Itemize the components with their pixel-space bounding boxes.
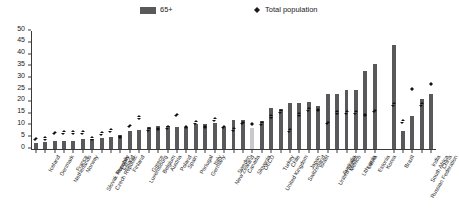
x-axis-tick-mark [308, 150, 309, 153]
marker-portugal [184, 123, 188, 127]
bar-south-africa [410, 116, 414, 150]
marker-france [62, 128, 66, 132]
x-axis-tick-mark [242, 150, 243, 153]
y-axis-tick-mark [28, 148, 31, 149]
bar-oecd [250, 128, 254, 149]
marker-new-zealand [213, 115, 217, 119]
y-axis-tick-mark [28, 89, 31, 90]
marker-luxembourg [128, 122, 132, 126]
x-axis-tick-mark [233, 150, 234, 153]
marker-poland [166, 123, 170, 127]
marker-belgium [147, 125, 151, 129]
x-axis-tick-mark [120, 150, 121, 153]
x-axis-tick-mark [412, 150, 413, 153]
x-axis-tick-mark [63, 150, 64, 153]
x-axis-tick-mark [214, 150, 215, 153]
x-axis-tick-mark [327, 150, 328, 153]
x-axis-tick-mark [158, 150, 159, 153]
y-axis-tick-label: 10 [17, 118, 28, 125]
y-axis-tick-label: 45 [17, 36, 28, 43]
x-axis-labels: IcelandDenmarkNetherlandsFranceNorwaySlo… [31, 154, 436, 212]
x-axis-tick-mark [35, 150, 36, 153]
x-axis-tick-mark [129, 150, 130, 153]
marker-iceland [34, 135, 38, 139]
bar-luxembourg [128, 131, 132, 149]
chart-legend: 65+ Total population [0, 6, 445, 20]
y-axis-tick-mark [28, 53, 31, 54]
marker-canada [232, 125, 236, 129]
marker-ireland [109, 126, 113, 130]
x-axis-tick-mark [290, 150, 291, 153]
x-axis-tick-mark [167, 150, 168, 153]
bar-norway [71, 141, 75, 149]
bar-latvia [354, 90, 358, 149]
x-axis-tick-mark [186, 150, 187, 153]
x-axis-tick-mark [195, 150, 196, 153]
bar-slovak-republic [81, 139, 85, 149]
x-axis-tick-mark [374, 150, 375, 153]
x-axis-tick-mark [252, 150, 253, 153]
bar-spain [175, 127, 179, 149]
x-axis-ticks [31, 150, 436, 153]
y-axis-ticks: 05101520253035404550 [31, 31, 32, 149]
legend-bar-swatch-icon [140, 7, 156, 14]
x-axis-tick-mark [365, 150, 366, 153]
x-axis-tick-mark [82, 150, 83, 153]
x-axis-tick-mark [139, 150, 140, 153]
marker-germany [194, 118, 198, 122]
bar-ireland [109, 137, 113, 149]
marker-estonia [363, 111, 367, 115]
y-axis-tick-mark [28, 124, 31, 125]
marker-chile [279, 107, 283, 111]
y-axis-tick-mark [28, 41, 31, 42]
marker-denmark [43, 134, 47, 138]
legend-diamond-marker-icon [254, 4, 260, 10]
bar-china [429, 94, 433, 149]
y-axis-tick-label: 35 [17, 59, 28, 66]
marker-oecd [250, 120, 254, 124]
x-axis-tick-mark [421, 150, 422, 153]
bar-mexico [335, 94, 339, 149]
x-axis-tick-mark [54, 150, 55, 153]
marker-china [429, 80, 433, 84]
bar-russian-federation [401, 131, 405, 149]
y-axis-tick-label: 15 [17, 107, 28, 114]
x-axis-label: Latvia [365, 154, 378, 170]
bar-lithuania [345, 90, 349, 149]
legend-label-total-population: Total population [265, 6, 318, 14]
y-axis-tick-label: 20 [17, 95, 28, 102]
x-axis-tick-mark [92, 150, 93, 153]
y-axis-tick-label: 30 [17, 71, 28, 78]
y-axis-tick-mark [28, 136, 31, 137]
x-axis-tick-mark [271, 150, 272, 153]
x-axis-label: Brazil [403, 154, 415, 169]
x-axis-tick-mark [318, 150, 319, 153]
marker-russian-federation [401, 117, 405, 121]
x-axis-tick-mark [299, 150, 300, 153]
marker-sweden [222, 123, 226, 127]
marker-south-africa [410, 85, 414, 89]
y-axis-tick-mark [28, 112, 31, 113]
marker-united-kingdom [260, 119, 264, 123]
marker-turkey [269, 112, 273, 116]
bar-france [62, 141, 66, 149]
legend-item-65plus: 65+ [140, 6, 173, 14]
x-axis-tick-mark [73, 150, 74, 153]
marker-united-states [316, 106, 320, 110]
marker-slovak-republic [81, 128, 85, 132]
y-axis-tick-label: 50 [17, 24, 28, 31]
bar-germany [194, 124, 198, 149]
y-axis-tick-label: 5 [21, 130, 28, 137]
marker-latvia [354, 108, 358, 112]
y-axis-tick-mark [28, 77, 31, 78]
y-axis-tick-label: 0 [21, 142, 28, 149]
bar-denmark [43, 142, 47, 149]
x-axis-tick-mark [148, 150, 149, 153]
marker-korea [373, 107, 377, 111]
marker-lithuania [345, 108, 349, 112]
x-axis-tick-mark [355, 150, 356, 153]
bar-hungary [100, 138, 104, 149]
x-axis-tick-mark [346, 150, 347, 153]
marker-japan [297, 110, 301, 114]
